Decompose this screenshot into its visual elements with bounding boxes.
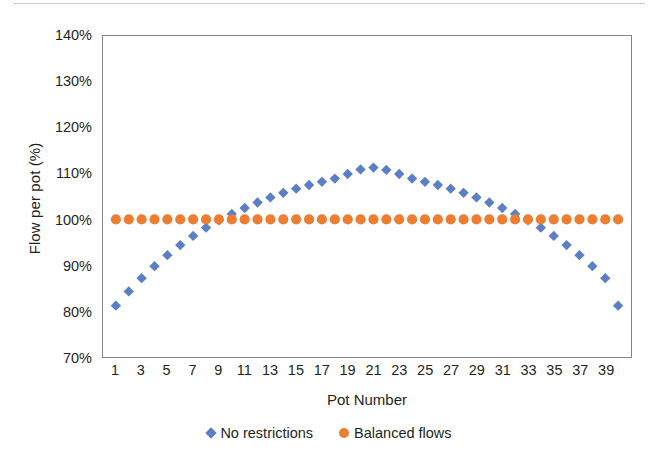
- flow-per-pot-scatter-chart: Flow per pot (%) 70%80%90%100%110%120%13…: [0, 0, 659, 465]
- data-point: [278, 188, 288, 198]
- data-point: [471, 192, 481, 202]
- data-point: [124, 286, 134, 296]
- data-point: [407, 214, 417, 224]
- data-point: [343, 169, 353, 179]
- y-tick-label: 120%: [55, 119, 92, 135]
- y-tick-label: 130%: [55, 73, 92, 89]
- data-point: [343, 214, 353, 224]
- data-point: [265, 214, 275, 224]
- data-point: [227, 214, 237, 224]
- x-tick-label: 23: [391, 362, 407, 378]
- data-point: [214, 214, 224, 224]
- data-point: [458, 188, 468, 198]
- data-point: [613, 214, 623, 224]
- data-point: [497, 214, 507, 224]
- y-tick-label: 80%: [63, 304, 92, 320]
- data-point: [420, 177, 430, 187]
- data-point: [446, 214, 456, 224]
- x-tick-label: 21: [365, 362, 381, 378]
- y-tick-label: 140%: [55, 27, 92, 43]
- data-point: [136, 273, 146, 283]
- x-axis-title: Pot Number: [102, 391, 632, 408]
- data-point: [291, 184, 301, 194]
- data-point: [162, 214, 172, 224]
- data-point: [587, 214, 597, 224]
- data-point: [574, 214, 584, 224]
- x-tick-label: 35: [546, 362, 562, 378]
- data-point: [549, 231, 559, 241]
- x-tick-label: 3: [137, 362, 145, 378]
- x-tick-label: 1: [111, 362, 119, 378]
- data-point: [291, 214, 301, 224]
- data-point: [175, 214, 185, 224]
- data-point: [368, 214, 378, 224]
- x-tick-label: 11: [237, 362, 252, 378]
- data-point: [600, 273, 610, 283]
- x-tick-label: 13: [262, 362, 278, 378]
- data-point: [201, 214, 211, 224]
- data-point: [381, 165, 391, 175]
- data-point: [149, 214, 159, 224]
- diamond-marker-icon: [206, 427, 217, 438]
- legend-entry[interactable]: No restrictions: [207, 425, 313, 441]
- data-point: [265, 192, 275, 202]
- data-point: [471, 214, 481, 224]
- x-tick-label: 7: [188, 362, 196, 378]
- data-point: [330, 173, 340, 183]
- data-point: [523, 214, 533, 224]
- data-point: [394, 169, 404, 179]
- plot-canvas: [103, 36, 631, 357]
- data-point: [381, 214, 391, 224]
- data-point: [407, 173, 417, 183]
- x-tick-label: 27: [443, 362, 459, 378]
- legend-entry[interactable]: Balanced flows: [339, 425, 452, 441]
- data-point: [613, 300, 623, 310]
- y-tick-label: 70%: [63, 350, 92, 366]
- data-point: [278, 214, 288, 224]
- data-point: [587, 261, 597, 271]
- plot-area: [102, 35, 632, 358]
- data-point: [536, 214, 546, 224]
- data-point: [433, 180, 443, 190]
- data-point: [394, 214, 404, 224]
- data-point: [510, 214, 520, 224]
- y-axis-tick-labels: 70%80%90%100%110%120%130%140%: [34, 35, 98, 358]
- data-point: [111, 300, 121, 310]
- data-point: [433, 214, 443, 224]
- series-balanced-flows: [111, 214, 623, 224]
- data-point: [111, 214, 121, 224]
- x-tick-label: 39: [598, 362, 614, 378]
- data-point: [355, 214, 365, 224]
- y-tick-label: 110%: [56, 165, 92, 181]
- data-point: [561, 240, 571, 250]
- data-point: [355, 164, 365, 174]
- x-tick-label: 33: [521, 362, 537, 378]
- data-point: [137, 214, 147, 224]
- data-point: [162, 250, 172, 260]
- data-point: [252, 214, 262, 224]
- data-point: [484, 214, 494, 224]
- data-point: [600, 214, 610, 224]
- x-axis-tick-labels: 13579111315171921232527293133353739: [102, 362, 632, 384]
- data-point: [239, 203, 249, 213]
- data-point: [484, 197, 494, 207]
- legend-label: No restrictions: [220, 425, 313, 441]
- data-point: [188, 214, 198, 224]
- data-point: [549, 214, 559, 224]
- data-point: [574, 250, 584, 260]
- data-point: [317, 214, 327, 224]
- x-tick-label: 9: [214, 362, 222, 378]
- x-tick-label: 25: [417, 362, 433, 378]
- x-tick-label: 5: [163, 362, 171, 378]
- series-no-restrictions: [111, 162, 624, 310]
- legend-label: Balanced flows: [354, 425, 452, 441]
- data-point: [188, 231, 198, 241]
- data-point: [317, 177, 327, 187]
- data-point: [175, 240, 185, 250]
- x-tick-label: 15: [288, 362, 304, 378]
- x-tick-label: 31: [495, 362, 511, 378]
- data-point: [124, 214, 134, 224]
- data-point: [304, 180, 314, 190]
- chart-legend: No restrictionsBalanced flows: [0, 425, 659, 441]
- data-point: [330, 214, 340, 224]
